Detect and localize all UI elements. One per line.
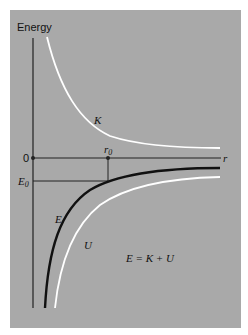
E0-label: E0 bbox=[17, 175, 29, 189]
kinetic-energy-curve bbox=[47, 37, 220, 148]
equation: E = K + U bbox=[125, 252, 175, 264]
r0-label: r0 bbox=[104, 143, 112, 157]
x-axis-label: r bbox=[223, 152, 228, 164]
origin-dot bbox=[31, 156, 35, 160]
energy-diagram: Energy 0 r r0 E0 K E U E = K + U bbox=[0, 0, 248, 335]
K-label: K bbox=[93, 114, 102, 126]
U-label: U bbox=[84, 239, 93, 251]
E-label: E bbox=[54, 213, 62, 225]
y-axis-label: Energy bbox=[17, 21, 52, 33]
origin-label: 0 bbox=[23, 152, 29, 164]
